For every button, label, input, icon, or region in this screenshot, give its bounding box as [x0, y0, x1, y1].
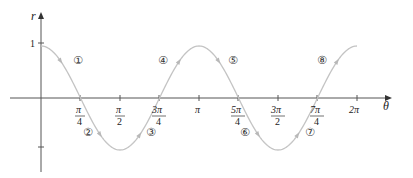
- tick-pi: π: [195, 104, 201, 115]
- tick-3pi-over-4: 3π 4: [151, 104, 166, 127]
- svg-text:3π: 3π: [151, 104, 163, 115]
- direction-arrow-icon: [334, 59, 339, 65]
- theta-axis-label: θ: [383, 99, 389, 113]
- svg-text:7π: 7π: [310, 104, 321, 115]
- segment-label-6: ⑥: [240, 126, 250, 139]
- tick-3pi-over-2: 3π 2: [270, 104, 285, 127]
- y-axis-arrow-icon: [38, 12, 44, 19]
- svg-text:3π: 3π: [270, 104, 282, 115]
- y-tick-label-1: 1: [30, 38, 35, 49]
- segment-label-7: ⑦: [305, 126, 315, 139]
- svg-text:4: 4: [156, 116, 161, 127]
- segment-label-1: ①: [73, 54, 83, 67]
- svg-text:π: π: [76, 104, 82, 115]
- svg-text:π: π: [116, 104, 122, 115]
- tick-2pi: 2π: [349, 104, 360, 115]
- tick-pi-over-4: π 4: [75, 104, 85, 127]
- direction-arrow-icon: [176, 59, 181, 65]
- segment-label-5: ⑤: [228, 54, 238, 67]
- polar-graph-cartesian: r θ 1 π 4 π 2 3π 4 π 5π 4 3π 2 7π 4 2π ①…: [0, 0, 413, 178]
- segment-label-2: ②: [83, 126, 93, 139]
- tick-7pi-over-4: 7π 4: [310, 104, 324, 127]
- svg-text:2: 2: [275, 116, 280, 127]
- segment-label-8: ⑧: [317, 54, 327, 67]
- tick-pi-over-2: π 2: [115, 104, 125, 127]
- svg-text:4: 4: [77, 116, 82, 127]
- direction-arrow-icon: [97, 131, 102, 137]
- svg-text:2: 2: [117, 116, 122, 127]
- direction-arrow-icon: [255, 131, 260, 137]
- segment-label-3: ③: [146, 126, 156, 139]
- segment-label-4: ④: [158, 54, 168, 67]
- svg-text:5π: 5π: [231, 104, 242, 115]
- r-axis-label: r: [31, 9, 36, 23]
